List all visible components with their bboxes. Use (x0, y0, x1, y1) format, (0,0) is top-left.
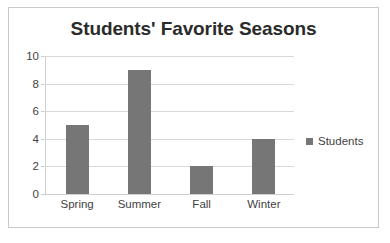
bars-group (46, 56, 294, 194)
y-tick-mark-0 (41, 194, 45, 195)
bar-fall[interactable] (190, 166, 213, 194)
bar-slot (108, 56, 170, 194)
bar-summer[interactable] (128, 70, 151, 194)
y-axis-tick-label: 10 (26, 50, 39, 62)
y-axis-tick-label: 6 (33, 105, 39, 117)
y-tick-mark-6 (41, 111, 45, 112)
y-axis-tick-label: 2 (33, 160, 39, 172)
bar-winter[interactable] (252, 139, 275, 194)
y-tick-mark-2 (41, 166, 45, 167)
x-axis-label-fall: Fall (171, 198, 233, 210)
gridline-0 (45, 194, 294, 195)
y-tick-mark-4 (41, 139, 45, 140)
bar-spring[interactable] (66, 125, 89, 194)
y-tick-mark-10 (41, 56, 45, 57)
x-axis-label-winter: Winter (233, 198, 295, 210)
y-tick-mark-8 (41, 84, 45, 85)
bar-slot (170, 56, 232, 194)
y-axis-tick-label: 8 (33, 78, 39, 90)
bar-slot (46, 56, 108, 194)
bar-slot (232, 56, 294, 194)
x-axis-label-summer: Summer (108, 198, 170, 210)
chart-title: Students' Favorite Seasons (9, 18, 378, 40)
x-axis-labels: SpringSummerFallWinter (46, 198, 295, 210)
y-axis-tick-label: 0 (33, 188, 39, 200)
y-axis-tick-label: 4 (33, 133, 39, 145)
legend-swatch-icon (306, 138, 313, 145)
legend-label: Students (318, 135, 363, 147)
x-axis-label-spring: Spring (46, 198, 108, 210)
plot-area: 0246810 (45, 56, 294, 194)
chart-frame: Students' Favorite Seasons 0246810 Sprin… (8, 7, 379, 228)
legend: Students (306, 135, 363, 147)
